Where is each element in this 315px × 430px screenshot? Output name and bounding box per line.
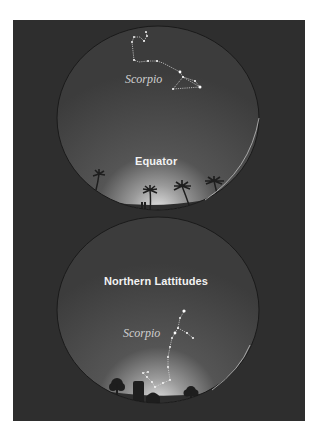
sky-views-illustration xyxy=(0,0,315,430)
northern-sky-dome xyxy=(40,217,280,420)
equator-sky-dome xyxy=(40,26,280,230)
location-label-northern: Northern Lattitudes xyxy=(104,275,208,287)
constellation-label-northern: Scorpio xyxy=(123,326,160,341)
constellation-label-equator: Scorpio xyxy=(125,72,162,87)
location-label-equator: Equator xyxy=(135,155,177,167)
